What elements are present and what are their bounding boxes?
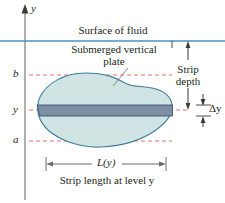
length-label: L(y) <box>95 157 117 169</box>
delta-y-label: Δy <box>209 103 222 115</box>
tick-label-a: a <box>13 134 19 146</box>
strip-band <box>37 105 172 116</box>
plate-label-line2: plate <box>60 56 168 68</box>
tick-label-y: y <box>13 104 18 116</box>
strip-depth-label-line1: Strip <box>168 64 208 76</box>
y-axis-arrowhead <box>22 4 29 14</box>
y-axis-label: y <box>31 3 36 15</box>
hydrostatic-force-diagram: Surface of fluid Submerged vertical plat… <box>0 0 225 203</box>
y-axis <box>22 4 29 200</box>
caption-strip-length: Strip length at level y <box>42 175 172 187</box>
tick-label-b: b <box>13 68 19 80</box>
fluid-surface-label: Surface of fluid <box>66 25 160 37</box>
plate-label-line1: Submerged vertical <box>60 44 168 56</box>
strip-depth-label-line2: depth <box>168 76 208 88</box>
